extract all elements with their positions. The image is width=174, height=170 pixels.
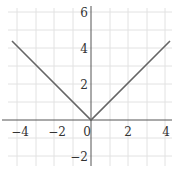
grid xyxy=(8,8,172,166)
y-tick-label: 4 xyxy=(80,42,88,56)
x-tick-label: −2 xyxy=(48,125,66,139)
x-tick-label: −4 xyxy=(11,125,29,139)
y-tick-label: 6 xyxy=(80,6,88,20)
x-tick-label: 2 xyxy=(124,125,132,139)
x-tick-label: 4 xyxy=(162,125,170,139)
x-tick-label: 0 xyxy=(83,125,91,139)
chart: −4 −2 0 2 4 6 4 2 −2 xyxy=(0,0,174,170)
y-tick-label: −2 xyxy=(70,150,88,164)
y-tick-label: 2 xyxy=(80,78,88,92)
